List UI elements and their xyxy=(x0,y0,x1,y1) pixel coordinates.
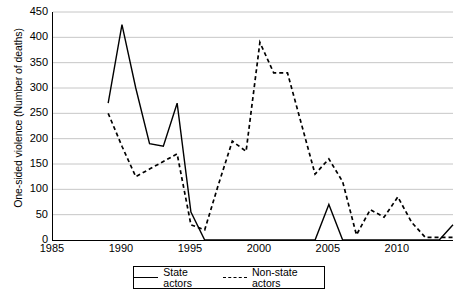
x-tick-label: 1995 xyxy=(170,243,210,254)
legend-item-non-state-actors: Non-state actors xyxy=(223,267,324,289)
y-tick-label: 400 xyxy=(10,31,48,42)
y-tick-label: 50 xyxy=(10,209,48,220)
x-tick-label: 2005 xyxy=(308,243,348,254)
series-line-non-state-actors xyxy=(108,42,453,237)
y-tick-label: 250 xyxy=(10,107,48,118)
y-tick-label: 200 xyxy=(10,133,48,144)
y-tick-label: 350 xyxy=(10,57,48,68)
chart-figure: One-sided violence (Number of deaths) 05… xyxy=(0,0,455,292)
y-tick-label: 300 xyxy=(10,82,48,93)
legend-item-state-actors: State actors xyxy=(134,267,216,289)
legend-label-non-state-actors: Non-state actors xyxy=(252,267,324,289)
x-tick-label: 2000 xyxy=(239,243,279,254)
series-line-state-actors xyxy=(108,25,453,240)
y-tick-label: 100 xyxy=(10,183,48,194)
series-canvas xyxy=(53,12,453,240)
legend-swatch-solid xyxy=(134,277,158,278)
x-tick-label: 1985 xyxy=(32,243,72,254)
y-tick-label: 450 xyxy=(10,6,48,17)
legend-swatch-dashed xyxy=(223,277,247,278)
x-tick-label: 2010 xyxy=(377,243,417,254)
legend-label-state-actors: State actors xyxy=(163,267,215,289)
chart-legend: State actors Non-state actors xyxy=(133,266,325,289)
plot-area xyxy=(52,12,453,241)
y-tick-label: 150 xyxy=(10,158,48,169)
x-tick-label: 1990 xyxy=(101,243,141,254)
